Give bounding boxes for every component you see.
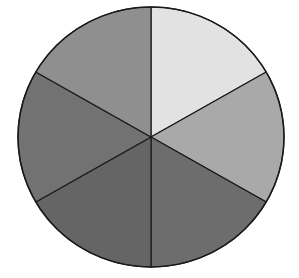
pie-chart	[0, 0, 299, 278]
pie-svg	[0, 0, 299, 278]
pie-slices	[18, 7, 284, 267]
